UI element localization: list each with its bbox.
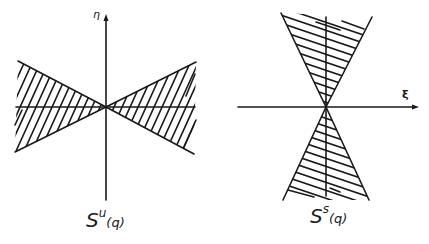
eta-axis-label: η <box>93 8 100 21</box>
caption-arg-u: (q) <box>106 215 124 230</box>
cone-diagram <box>0 0 429 244</box>
unstable-cone-caption: Su(q) <box>86 208 125 232</box>
caption-arg-s: (q) <box>329 211 347 226</box>
hatch-left-lobe <box>0 50 126 160</box>
caption-main-s: S <box>310 204 323 228</box>
xi-axis-label: ξ <box>402 88 409 101</box>
caption-superscript-s: s <box>323 202 329 216</box>
unstable-cone-panel <box>0 14 228 200</box>
caption-main-u: S <box>86 208 99 232</box>
cone-edge-lower-left <box>15 107 106 152</box>
caption-superscript-u: u <box>99 206 107 220</box>
eta-axis-arrowhead <box>104 14 109 21</box>
cone-edge-lower-right <box>106 107 194 154</box>
stable-cone-panel <box>238 0 419 220</box>
stable-cone-caption: Ss(q) <box>310 204 347 228</box>
cone-edge-upper-right <box>106 62 196 107</box>
xi-axis-arrowhead <box>412 105 419 110</box>
